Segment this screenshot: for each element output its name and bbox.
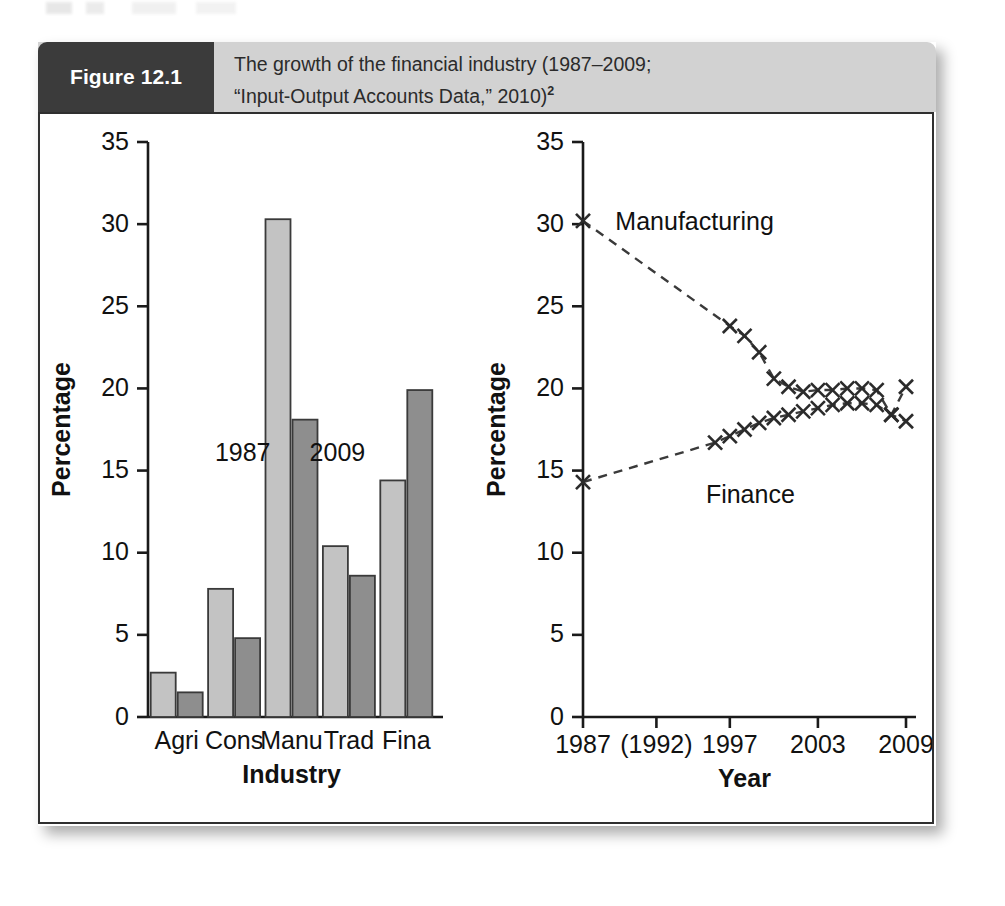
- line-y-tick-label: 10: [536, 537, 564, 565]
- bar-1987: [151, 673, 176, 717]
- bar-1987: [208, 589, 233, 717]
- figure-caption-superscript: 2: [547, 84, 554, 98]
- bar-y-tick-label: 35: [101, 127, 129, 155]
- bar-y-tick-label: 15: [101, 455, 129, 483]
- bar-1987: [323, 546, 348, 717]
- figure-number-label: Figure 12.1: [70, 65, 182, 89]
- bar-x-axis-title: Industry: [242, 760, 341, 788]
- bar-y-tick-label: 30: [101, 209, 129, 237]
- bar-2009: [350, 576, 375, 717]
- figure-caption: The growth of the financial industry (19…: [234, 51, 922, 109]
- figure-caption-line-1: The growth of the financial industry (19…: [234, 53, 651, 75]
- bar-1987: [266, 219, 291, 717]
- bar-y-tick-label: 20: [101, 373, 129, 401]
- bar-y-tick-label: 10: [101, 537, 129, 565]
- series-label-manufacturing: Manufacturing: [615, 207, 773, 235]
- bar-x-tick-label: Fina: [382, 726, 431, 754]
- figure-header: Figure 12.1 The growth of the financial …: [38, 42, 936, 112]
- line-y-tick-label: 0: [550, 702, 564, 730]
- line-y-tick-label: 25: [536, 291, 564, 319]
- bar-y-tick-label: 5: [115, 619, 129, 647]
- line-y-tick-label: 30: [536, 209, 564, 237]
- charts-svg: 05101520253035PercentageAgriConsManuTrad…: [40, 114, 932, 822]
- figure-card: Figure 12.1 The growth of the financial …: [38, 42, 936, 826]
- line-x-tick-label: (1992): [620, 730, 692, 758]
- line-y-tick-label: 35: [536, 127, 564, 155]
- series-label-finance: Finance: [706, 480, 795, 508]
- bar-1987: [380, 480, 405, 717]
- figure-caption-line-2: “Input-Output Accounts Data,” 2010): [234, 84, 547, 106]
- bar-2009: [178, 692, 203, 717]
- bar-series-annotation: 2009: [310, 438, 366, 466]
- bar-y-axis-title: Percentage: [47, 362, 75, 497]
- line-x-tick-label: 1987: [555, 730, 611, 758]
- bar-y-tick-label: 25: [101, 291, 129, 319]
- bar-2009: [407, 390, 432, 717]
- line-x-tick-label: 1997: [702, 730, 758, 758]
- line-x-tick-label: 2009: [878, 730, 932, 758]
- line-x-tick-label: 2003: [790, 730, 846, 758]
- line-y-tick-label: 5: [550, 619, 564, 647]
- bar-x-tick-label: Agri: [154, 726, 198, 754]
- series-line-finance: [583, 403, 906, 482]
- line-y-axis-title: Percentage: [482, 362, 510, 497]
- line-y-tick-label: 20: [536, 373, 564, 401]
- chart-panel: 05101520253035PercentageAgriConsManuTrad…: [38, 112, 934, 824]
- bar-x-tick-label: Cons: [205, 726, 263, 754]
- bar-y-tick-label: 0: [115, 702, 129, 730]
- bar-x-tick-label: Manu: [260, 726, 323, 754]
- line-y-tick-label: 15: [536, 455, 564, 483]
- bar-2009: [235, 638, 260, 717]
- line-x-axis-title: Year: [718, 764, 771, 792]
- bar-x-tick-label: Trad: [324, 726, 374, 754]
- bar-series-annotation: 1987: [215, 438, 271, 466]
- figure-number-box: Figure 12.1: [38, 42, 214, 112]
- page-scan-artifact: [46, 2, 236, 14]
